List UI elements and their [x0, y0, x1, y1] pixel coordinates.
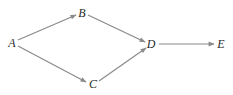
edge-b-d	[88, 15, 145, 42]
node-c: C	[89, 78, 97, 90]
edge-a-b	[18, 15, 76, 40]
edge-a-c	[18, 46, 86, 82]
node-d: D	[147, 38, 156, 50]
directed-graph-diagram: A B C D E	[0, 0, 233, 95]
node-b: B	[78, 7, 85, 19]
edge-c-d	[99, 48, 146, 81]
node-a: A	[8, 37, 15, 49]
edges-layer	[0, 0, 233, 95]
node-e: E	[217, 38, 224, 50]
